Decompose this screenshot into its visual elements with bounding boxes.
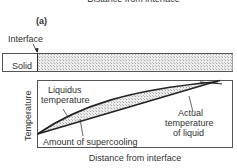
x-axis-label: Distance from interface (37, 153, 233, 163)
actual-label-line1: Actual (178, 108, 203, 118)
liquidus-label-line1: Liquidus (48, 85, 82, 95)
liquidus-label-line2: temperature (41, 95, 90, 105)
supercooling-label: Amount of supercooling (43, 137, 138, 147)
diagram-canvas: Solid Liquidus temperature Amount of sup… (0, 0, 237, 168)
solid-label: Solid (12, 61, 32, 71)
y-axis-label: Temperature (23, 90, 33, 141)
actual-label-line3: of liquid (173, 128, 204, 138)
solid-liquid-bar (3, 54, 233, 72)
interface-arrow-icon (33, 44, 39, 53)
actual-label-line2: temperature (165, 118, 214, 128)
